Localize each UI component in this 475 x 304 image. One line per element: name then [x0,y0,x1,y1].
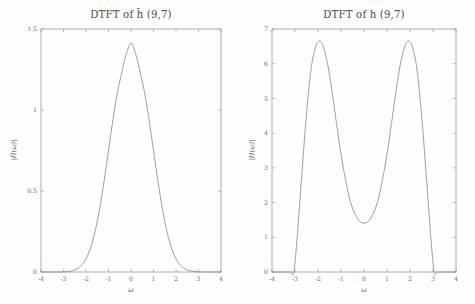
x-tick-label: -2 [83,275,89,282]
x-tick-label: -4 [38,275,44,282]
plot-panel-right: DTFT of h (9,7) -4-3-2-10123401234567 ω … [235,0,475,304]
axis-ticks-right: -4-3-2-10123401234567 [264,25,458,282]
x-tick-label: 2 [408,275,412,282]
y-tick-label: 4 [264,129,268,136]
x-tick-label: -3 [60,275,66,282]
x-tick-label: -3 [292,275,298,282]
y-tick-label: 1 [264,233,268,240]
x-tick-label: 4 [454,275,458,282]
x-tick-label: -4 [269,275,275,282]
x-axis-label-right: ω [361,286,367,294]
x-tick-label: 0 [129,275,133,282]
y-tick-label: 5 [264,95,268,102]
x-tick-label: 0 [362,275,366,282]
plot-title-right: DTFT of h (9,7) [323,9,404,20]
x-tick-label: -1 [105,275,111,282]
plot-title-left: DTFT of h̃ (9,7) [90,8,171,20]
y-axis-label-left: |H̃(ω)| [10,140,18,161]
y-tick-label: 1 [33,106,37,113]
x-tick-label: -1 [338,275,344,282]
y-tick-label: 7 [264,25,268,32]
y-tick-label: 6 [264,60,268,67]
x-tick-label: 2 [174,275,178,282]
x-tick-label: 3 [431,275,435,282]
x-tick-label: -2 [315,275,321,282]
plot-panel-left: DTFT of h̃ (9,7) -4-3-2-10123400.511.5 ω… [0,0,240,304]
figure-canvas: DTFT of h̃ (9,7) -4-3-2-10123400.511.5 ω… [0,0,475,304]
y-tick-label: 0 [264,268,268,275]
plot-svg-left: DTFT of h̃ (9,7) -4-3-2-10123400.511.5 ω… [0,0,240,304]
axis-box-right [272,29,456,272]
data-curve-left [41,43,221,272]
data-curve-right [272,41,456,275]
y-tick-label: 1.5 [27,25,37,32]
plot-svg-right: DTFT of h (9,7) -4-3-2-10123401234567 ω … [235,0,475,304]
axis-ticks-left: -4-3-2-10123400.511.5 [27,25,223,282]
y-axis-label-right: |H(ω)| [248,140,256,161]
x-tick-label: 1 [152,275,156,282]
y-tick-label: 0.5 [27,187,37,194]
x-tick-label: 4 [219,275,223,282]
y-tick-label: 2 [264,199,268,206]
x-tick-label: 1 [385,275,389,282]
y-tick-label: 3 [264,164,268,171]
x-tick-label: 3 [197,275,201,282]
y-tick-label: 0 [33,268,37,275]
axis-box-left [41,29,221,272]
x-axis-label-left: ω [128,286,134,294]
